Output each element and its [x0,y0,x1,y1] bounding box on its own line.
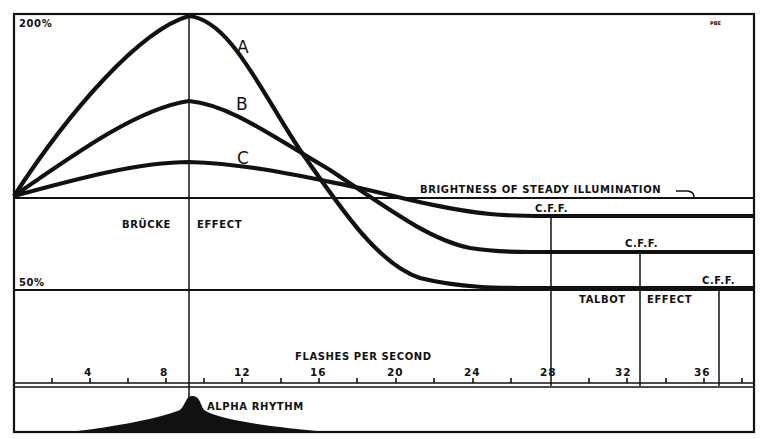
flicker-brightness-chart: 200% 50% A B C BRIGHTNESS OF STEADY ILLU… [0,0,764,439]
steady-illumination-label: BRIGHTNESS OF STEADY ILLUMINATION [420,184,661,195]
curve-b-label: B [236,94,248,114]
x-tick-28: 28 [540,366,557,378]
cff-c-label: C.F.F. [535,203,568,214]
y-label-200: 200% [19,18,52,29]
brucke-effect-label: EFFECT [197,219,242,230]
x-tick-24: 24 [464,366,481,378]
talbot-label: TALBOT [579,294,626,305]
x-tick-12: 12 [234,366,251,378]
x-tick-8: 8 [160,366,168,378]
curve-a-label: A [237,37,249,57]
credit-mark: PBE [710,20,721,26]
x-tick-16: 16 [310,366,327,378]
x-tick-32: 32 [615,366,632,378]
cff-b-label: C.F.F. [625,238,658,249]
x-axis-title: FLASHES PER SECOND [295,351,432,362]
x-tick-20: 20 [387,366,404,378]
steady-label-pointer [676,191,694,197]
alpha-rhythm-label: ALPHA RHYTHM [207,401,304,412]
brucke-label: BRÜCKE [122,217,171,230]
curve-c-label: C [237,148,249,168]
x-tick-4: 4 [84,366,92,378]
talbot-effect-label: EFFECT [647,294,692,305]
x-tick-36: 36 [694,366,711,378]
y-label-50: 50% [19,277,45,288]
cff-a-label: C.F.F. [702,275,735,286]
